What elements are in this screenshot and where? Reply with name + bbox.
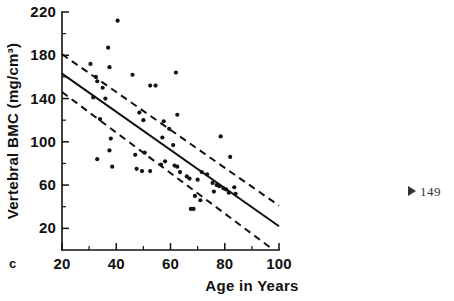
confidence-bands (62, 54, 279, 250)
data-point (232, 185, 236, 189)
data-point (196, 178, 200, 182)
data-point (95, 157, 99, 161)
data-point (148, 169, 152, 173)
data-point (98, 117, 102, 121)
data-point (174, 70, 178, 74)
x-tick-label: 40 (108, 255, 125, 272)
data-point (163, 159, 167, 163)
data-point (178, 170, 182, 174)
x-tick-labels: 20406080100 (53, 255, 291, 272)
data-point (134, 167, 138, 171)
y-axis-title: Vertebral BMC (mg/cm³) (4, 43, 21, 220)
data-point (175, 165, 179, 169)
data-point (95, 79, 99, 83)
data-point (91, 95, 95, 99)
x-tick-label: 20 (53, 255, 70, 272)
data-point (210, 181, 214, 185)
data-point (191, 207, 195, 211)
data-point (193, 194, 197, 198)
panel-label-c: c (9, 256, 16, 271)
y-tick-labels: 2060100140180220 (30, 3, 56, 236)
y-tick-label: 180 (30, 46, 56, 63)
confidence-band-line (62, 92, 274, 250)
triangle-right-icon (408, 186, 416, 196)
data-point (109, 136, 113, 140)
data-point (228, 155, 232, 159)
data-point (143, 151, 147, 155)
y-tick-label: 60 (39, 176, 56, 193)
data-point (88, 62, 92, 66)
y-tick-label: 220 (30, 3, 56, 20)
page-marker-number: 149 (420, 184, 441, 199)
scatter-chart: 2060100140180220 20406080100 Age in Year… (0, 0, 454, 301)
data-point (227, 191, 231, 195)
x-tick-label: 100 (266, 255, 292, 272)
data-point (101, 86, 105, 90)
data-point (234, 192, 238, 196)
data-point (167, 127, 171, 131)
x-tick-label: 60 (162, 255, 179, 272)
data-point (106, 46, 110, 50)
data-point (160, 135, 164, 139)
data-point (224, 187, 228, 191)
data-point (107, 65, 111, 69)
data-point (130, 73, 134, 77)
data-point (107, 148, 111, 152)
data-point (205, 172, 209, 176)
data-point (148, 83, 152, 87)
data-point (217, 184, 221, 188)
x-axis-title: Age in Years (205, 277, 298, 294)
figure-panel-c: 2060100140180220 20406080100 Age in Year… (0, 0, 454, 301)
data-point (219, 134, 223, 138)
data-point (187, 177, 191, 181)
data-point (171, 143, 175, 147)
y-tick-label: 100 (30, 133, 56, 150)
y-tick-label: 20 (39, 219, 56, 236)
y-tick-label: 140 (30, 90, 56, 107)
data-point (153, 83, 157, 87)
data-point (94, 75, 98, 79)
data-point (110, 165, 114, 169)
data-point (133, 153, 137, 157)
data-point (159, 162, 163, 166)
data-point (140, 169, 144, 173)
data-point (103, 96, 107, 100)
data-point (198, 198, 202, 202)
data-point (116, 19, 120, 23)
data-point (175, 113, 179, 117)
x-tick-label: 80 (216, 255, 233, 272)
data-point (200, 170, 204, 174)
data-point (137, 111, 141, 115)
data-point (212, 189, 216, 193)
data-point (141, 118, 145, 122)
data-point (162, 119, 166, 123)
